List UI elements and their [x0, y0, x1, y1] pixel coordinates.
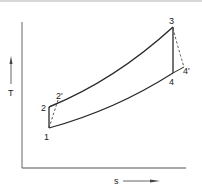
point-label-3: 3 — [169, 16, 174, 26]
point-label-2-prime: 2' — [56, 91, 63, 101]
y-axis-label: T — [8, 88, 14, 98]
path-1-4 — [49, 73, 173, 128]
path-2-3 — [49, 27, 173, 107]
x-axis-label: s — [114, 176, 119, 186]
x-axis-arrow-icon — [123, 180, 160, 183]
path-3-4p-dashed — [173, 28, 184, 67]
t-s-diagram: T s 1 2 2' 3 4 4' — [0, 0, 202, 192]
path-1-2p-dashed — [49, 100, 58, 128]
point-label-1: 1 — [44, 132, 49, 142]
point-label-4-prime: 4' — [183, 66, 190, 76]
point-label-2: 2 — [41, 103, 46, 113]
y-axis-arrow-icon — [10, 56, 13, 84]
point-label-4: 4 — [169, 77, 174, 87]
